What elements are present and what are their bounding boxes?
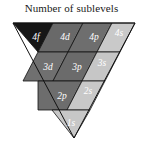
cell-label-2p: 2p	[57, 91, 67, 101]
cell-label-1s: 1s	[67, 118, 76, 128]
cell-label-2s: 2s	[84, 86, 93, 96]
cell-label-4p: 4p	[89, 32, 99, 42]
cell-label-3p: 3p	[71, 62, 82, 72]
cell-label-3s: 3s	[97, 58, 107, 68]
cell-label-4d: 4d	[60, 32, 70, 42]
cell-label-3d: 3d	[42, 62, 53, 72]
triangle-row-3	[38, 81, 105, 110]
sublevels-figure: Number of sublevels 4f 4d 4p	[0, 0, 143, 143]
cell-label-4s: 4s	[115, 28, 124, 38]
sublevels-triangle-diagram: 4f 4d 4p 4s 3d 3p 3s 2p 2s 1s	[0, 0, 143, 143]
